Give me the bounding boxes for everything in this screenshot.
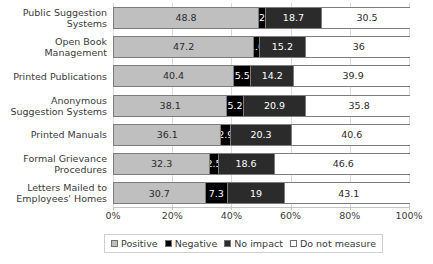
bar-segment: 15.2	[259, 37, 305, 57]
bar-value-label: 18.6	[236, 159, 257, 169]
category-label-line: Open Book	[55, 36, 107, 47]
bar-segment: 19	[227, 183, 284, 203]
bar-row: 38.15.220.935.8	[113, 95, 410, 117]
legend-swatch-icon	[111, 240, 118, 247]
category-label: Letters Mailed toEmployees' Homes	[0, 182, 107, 204]
bar-segment: 35.8	[305, 96, 412, 116]
category-label-line: Management	[44, 47, 107, 58]
bar-segment: 7.3	[205, 183, 228, 203]
category-label: Formal GrievanceProcedures	[0, 153, 107, 175]
legend-item[interactable]: Negative	[165, 238, 218, 249]
bar-value-label: 20.3	[250, 130, 271, 140]
legend-label: Do not measure	[300, 238, 376, 249]
category-label: Printed Publications	[0, 65, 107, 87]
stacked-bar-chart: Public SuggestionSystemsOpen BookManagem…	[0, 0, 433, 264]
bar-value-label: 46.6	[333, 159, 354, 169]
bar-value-label: 43.1	[338, 189, 359, 199]
bar-segment: 30.5	[321, 8, 412, 28]
bar-value-label: 36.1	[157, 130, 178, 140]
bar-segment: 14.2	[250, 66, 293, 86]
bar-segment: 40.4	[114, 66, 233, 86]
bar-row: 32.32.518.646.6	[113, 153, 410, 175]
bar-value-label: 19	[250, 189, 262, 199]
x-tick-label: 80%	[339, 210, 360, 221]
category-label: Open BookManagement	[0, 36, 107, 58]
bar-value-label: 30.5	[356, 13, 377, 23]
bar-value-label: 48.8	[175, 13, 196, 23]
bar-value-label: 15.2	[272, 42, 293, 52]
bar-segment: 39.9	[293, 66, 412, 86]
bar-segment: 48.8	[114, 8, 258, 28]
bar-segment: 43.1	[284, 183, 412, 203]
legend-item[interactable]: No impact	[224, 238, 283, 249]
category-label-line: Suggestion Systems	[11, 106, 108, 117]
bar-segment: 18.7	[265, 8, 321, 28]
bar-segment: 5.5	[233, 66, 250, 86]
category-label-line: Printed Publications	[13, 71, 107, 82]
category-label-line: Systems	[67, 18, 107, 29]
bar-segment: 18.6	[218, 154, 274, 174]
bar-row: 47.21.615.236	[113, 36, 410, 58]
bar-value-label: 20.9	[264, 101, 285, 111]
bar-value-label: 18.7	[283, 13, 304, 23]
bar-value-label: 7.3	[209, 189, 224, 199]
bar-value-label: 2.9	[220, 130, 230, 140]
bar-segment: 46.6	[274, 154, 412, 174]
category-label-line: Public Suggestion	[23, 7, 107, 18]
bar-segment: 36	[305, 37, 412, 57]
x-tick-label: 0%	[105, 210, 120, 221]
bar-value-label: 40.4	[163, 71, 184, 81]
bar-value-label: 5.2	[228, 101, 243, 111]
category-label: Public SuggestionSystems	[0, 7, 107, 29]
bar-value-label: 39.9	[343, 71, 364, 81]
bar-segment: 38.1	[114, 96, 226, 116]
category-label-line: Printed Manuals	[31, 129, 107, 140]
bar-row: 30.77.31943.1	[113, 182, 410, 204]
category-axis-labels: Public SuggestionSystemsOpen BookManagem…	[0, 3, 110, 208]
bar-segment: 2.5	[209, 154, 217, 174]
bar-segment: 36.1	[114, 125, 220, 145]
bar-value-label: 5.5	[235, 71, 250, 81]
x-axis-labels: 0%20%40%60%80%100%	[113, 210, 410, 224]
bar-segment: 2	[258, 8, 265, 28]
bar-segment: 40.6	[291, 125, 412, 145]
category-label-line: Formal Grievance	[23, 153, 107, 164]
category-label: AnonymousSuggestion Systems	[0, 95, 107, 117]
legend-swatch-icon	[290, 240, 297, 247]
legend-label: Negative	[175, 238, 218, 249]
legend-label: No impact	[234, 238, 283, 249]
bar-value-label: 38.1	[160, 101, 181, 111]
category-label-line: Employees' Homes	[16, 193, 107, 204]
legend-label: Positive	[121, 238, 158, 249]
bar-value-label: 2.5	[209, 159, 217, 169]
bar-row: 48.8218.730.5	[113, 7, 410, 29]
bar-value-label: 35.8	[349, 101, 370, 111]
bar-value-label: 32.3	[151, 159, 172, 169]
bar-segment: 2.9	[220, 125, 230, 145]
bar-value-label: 40.6	[341, 130, 362, 140]
x-tick-label: 60%	[280, 210, 301, 221]
x-tick-label: 20%	[162, 210, 183, 221]
bar-segment: 5.2	[226, 96, 242, 116]
x-tick-label: 100%	[395, 210, 422, 221]
bar-segment: 47.2	[114, 37, 253, 57]
bar-value-label: 14.2	[262, 71, 283, 81]
legend-swatch-icon	[165, 240, 172, 247]
category-label-line: Procedures	[54, 164, 107, 175]
bar-rows: 48.8218.730.547.21.615.23640.45.514.239.…	[113, 3, 410, 208]
legend-swatch-icon	[224, 240, 231, 247]
bar-value-label: 30.7	[149, 189, 170, 199]
x-tick-label: 40%	[221, 210, 242, 221]
bar-row: 40.45.514.239.9	[113, 65, 410, 87]
plot-area: 48.8218.730.547.21.615.23640.45.514.239.…	[113, 3, 410, 208]
legend-item[interactable]: Positive	[111, 238, 158, 249]
bar-segment: 32.3	[114, 154, 209, 174]
bar-segment: 20.3	[230, 125, 291, 145]
category-label-line: Letters Mailed to	[27, 182, 107, 193]
bar-segment: 20.9	[243, 96, 306, 116]
bar-row: 36.12.920.340.6	[113, 124, 410, 146]
category-label-line: Anonymous	[51, 95, 107, 106]
bar-value-label: 36	[353, 42, 365, 52]
bar-segment: 30.7	[114, 183, 205, 203]
legend-item[interactable]: Do not measure	[290, 238, 376, 249]
